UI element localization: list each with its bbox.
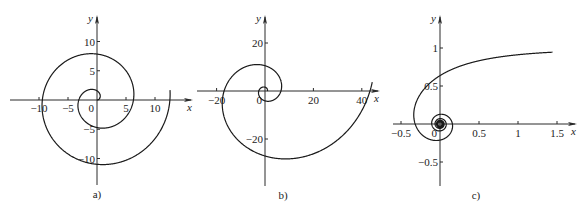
y-axis-label: y [255,12,261,24]
x-tick-label: 1 [515,127,521,139]
origin-label: 0 [89,102,95,114]
x-tick-label: 20 [308,94,320,106]
x-tick-label: 5 [123,102,129,114]
x-tick-label: 10 [150,102,162,114]
y-tick-label: 20 [252,37,264,49]
x-tick-label: 40 [356,94,368,106]
panel-caption: c) [472,189,481,202]
panel-b: xy−20204020−200b) [197,12,380,202]
panel-a: xy−10−5510105−5−100a) [10,12,193,201]
y-axis-label: y [87,12,93,24]
y-tick-label: −20 [246,133,264,145]
x-tick-label: 1.5 [550,127,564,139]
y-tick-label: 10 [84,36,96,48]
x-tick-label: −0.5 [391,127,411,139]
panel-c: xy−0.50.511.510.5−0.50c) [391,12,577,202]
panel-caption: b) [278,189,288,202]
spiral-figure: xy−10−5510105−5−100a)xy−20204020−200b)xy… [0,0,582,210]
x-tick-label: 0.5 [472,127,486,139]
y-tick-label: 5 [90,65,96,77]
x-axis-label: x [373,92,379,104]
y-axis-label: y [430,12,436,24]
x-axis-label: x [186,101,192,113]
panel-caption: a) [93,188,102,201]
x-tick-label: −10 [30,102,48,114]
y-tick-label: 1 [433,42,439,54]
y-tick-label: −0.5 [418,156,438,168]
logarithmic-spiral-curve [222,65,372,159]
x-tick-label: −5 [62,102,74,114]
x-axis-label: x [570,125,576,137]
